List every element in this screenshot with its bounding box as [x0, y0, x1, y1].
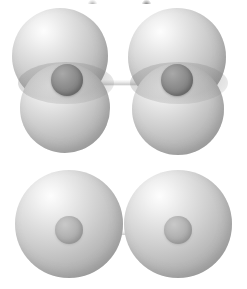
nucleus	[164, 216, 192, 244]
nucleus	[51, 64, 83, 96]
molecule-pi-bond	[0, 0, 247, 155]
molecular-orbital-figure: Molecular orbital overlap diagram	[0, 0, 247, 289]
nucleus	[161, 64, 193, 96]
molecule-sigma-bond	[0, 170, 247, 289]
nucleus	[55, 216, 83, 244]
